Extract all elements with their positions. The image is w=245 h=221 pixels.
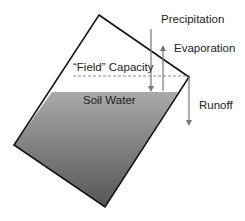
runoff-label: Runoff [199, 100, 233, 112]
soil-water-region [14, 92, 178, 207]
soil-water-label: Soil Water [83, 95, 136, 107]
precipitation-label: Precipitation [161, 14, 224, 26]
field-capacity-label: “Field” Capacity [73, 62, 154, 74]
evaporation-label: Evaporation [174, 43, 235, 55]
